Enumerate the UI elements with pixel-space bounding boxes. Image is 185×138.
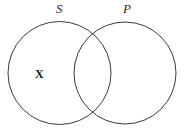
region-mark-x: X [35, 68, 44, 80]
venn-diagram: S P X [0, 0, 185, 138]
set-label-p: P [123, 2, 131, 15]
set-label-s: S [56, 2, 63, 15]
figure-background [0, 0, 185, 138]
venn-circles-graphic [0, 0, 185, 138]
